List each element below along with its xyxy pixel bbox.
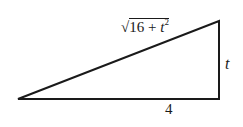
base-side-label: 4 (165, 101, 173, 118)
radical-sign: √ (121, 19, 129, 35)
vertical-side-label: t (225, 55, 229, 73)
triangle-shape (18, 21, 219, 99)
hypotenuse-label: √16 + t2 (121, 17, 169, 36)
radicand: 16 + t2 (129, 18, 169, 35)
